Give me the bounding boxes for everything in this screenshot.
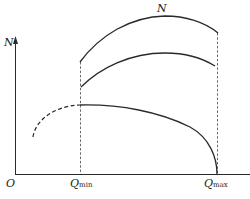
middle-curve [81,53,215,87]
qmax-label: Qmax [204,178,228,189]
qmin-base: Q [70,177,79,190]
lower-curve [80,105,217,174]
upper-curve-label: N [157,3,167,14]
qmin-label: Qmin [70,178,92,189]
qmin-subscript: min [79,181,92,189]
y-axis-label: N [4,37,14,48]
qmax-subscript: max [213,181,228,189]
upper-curve [80,16,218,62]
lower-curve-dashed-extension [33,105,80,137]
qmax-base: Q [204,177,213,190]
origin-label: O [6,178,15,189]
diagram-canvas [0,0,250,199]
